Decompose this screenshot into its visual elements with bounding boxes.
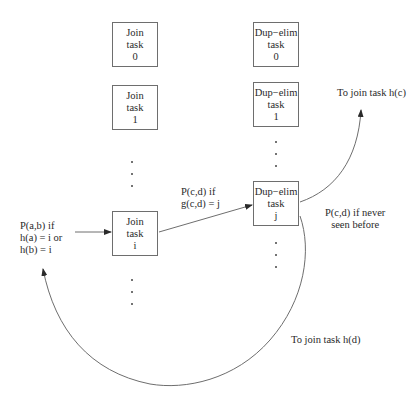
join-task-1-line2: task (127, 102, 144, 114)
to-join-task-hd-label: To join task h(d) (291, 334, 361, 346)
ellipsis-dot (275, 165, 277, 167)
to-hd-arrow (43, 216, 305, 386)
dupelim-task-1-line1: Dup−elim (255, 87, 298, 99)
join-task-i-line1: Join (126, 216, 144, 228)
dupelim-task-0: Dup−elim task 0 (253, 22, 299, 67)
dupelim-task-j-line3: j (275, 210, 278, 222)
ellipsis-dot (275, 153, 277, 155)
join-task-i: Join task i (112, 211, 158, 256)
dupelim-task-j: Dup−elim task j (253, 181, 299, 226)
dupelim-task-0-line1: Dup−elim (255, 27, 298, 39)
to-hc-arrow (300, 110, 361, 202)
join-to-dupelim-line2: g(c,d) = j (181, 198, 220, 210)
join-task-0: Join task 0 (112, 22, 158, 67)
dupelim-task-j-line1: Dup−elim (255, 186, 298, 198)
join-task-i-line2: task (127, 228, 144, 240)
dupelim-task-0-line3: 0 (273, 51, 278, 63)
ellipsis-dot (275, 242, 277, 244)
to-join-task-hc-label: To join task h(c) (337, 87, 406, 99)
join-to-dupelim-label: P(c,d) if g(c,d) = j (181, 186, 220, 210)
dupelim-task-0-line2: task (268, 39, 285, 51)
input-condition-line1: P(a,b) if (20, 220, 62, 232)
ellipsis-dot (275, 254, 277, 256)
ellipsis-dot (131, 173, 133, 175)
never-seen-line2: seen before (325, 219, 385, 231)
never-seen-label: P(c,d) if never seen before (325, 207, 385, 231)
join-task-i-line3: i (134, 240, 137, 252)
join-task-1: Join task 1 (112, 85, 158, 130)
dupelim-task-1-line3: 1 (273, 111, 278, 123)
ellipsis-dot (275, 141, 277, 143)
join-task-1-line3: 1 (132, 114, 137, 126)
ellipsis-dot (131, 185, 133, 187)
join-task-0-line2: task (127, 39, 144, 51)
dupelim-task-1: Dup−elim task 1 (253, 82, 299, 127)
ellipsis-dot (275, 266, 277, 268)
join-task-0-line3: 0 (132, 51, 137, 63)
input-condition-label: P(a,b) if h(a) = i or h(b) = i (20, 220, 62, 256)
dupelim-task-j-line2: task (268, 198, 285, 210)
join-task-0-line1: Join (126, 27, 144, 39)
input-condition-line3: h(b) = i (20, 244, 62, 256)
never-seen-line1: P(c,d) if never (325, 207, 385, 219)
ellipsis-dot (131, 279, 133, 281)
join-task-1-line1: Join (126, 90, 144, 102)
ellipsis-dot (131, 303, 133, 305)
input-condition-line2: h(a) = i or (20, 232, 62, 244)
ellipsis-dot (131, 291, 133, 293)
dupelim-task-1-line2: task (268, 99, 285, 111)
join-to-dupelim-line1: P(c,d) if (181, 186, 220, 198)
diagram-canvas: Join task 0 Join task 1 Join task i Dup−… (0, 0, 418, 404)
ellipsis-dot (131, 161, 133, 163)
